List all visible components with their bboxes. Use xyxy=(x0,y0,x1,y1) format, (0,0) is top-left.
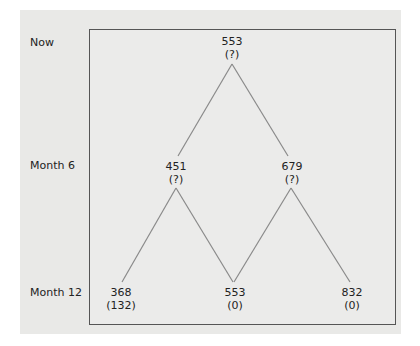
node-payoff: (0) xyxy=(322,299,382,312)
edge-m6-high-to-m12-high xyxy=(291,188,350,282)
node-payoff: (?) xyxy=(202,48,262,61)
node-value: 368 xyxy=(91,286,151,299)
node-month6-up: 679 (?) xyxy=(262,160,322,186)
node-value: 832 xyxy=(322,286,382,299)
node-payoff: (?) xyxy=(262,173,322,186)
node-month12-middle: 553 (0) xyxy=(205,286,265,312)
node-month6-down: 451 (?) xyxy=(146,160,206,186)
edge-m6-low-to-m12-low xyxy=(122,188,176,282)
edge-m6-low-to-m12-mid xyxy=(176,188,233,282)
node-value: 553 xyxy=(205,286,265,299)
edge-root-to-m6-high xyxy=(232,64,288,156)
node-payoff: (132) xyxy=(91,299,151,312)
node-month12-down: 368 (132) xyxy=(91,286,151,312)
node-payoff: (0) xyxy=(205,299,265,312)
edge-root-to-m6-low xyxy=(178,64,232,156)
node-value: 451 xyxy=(146,160,206,173)
node-value: 679 xyxy=(262,160,322,173)
edge-m6-high-to-m12-mid xyxy=(234,188,291,282)
node-payoff: (?) xyxy=(146,173,206,186)
node-value: 553 xyxy=(202,35,262,48)
node-now: 553 (?) xyxy=(202,35,262,61)
node-month12-up: 832 (0) xyxy=(322,286,382,312)
